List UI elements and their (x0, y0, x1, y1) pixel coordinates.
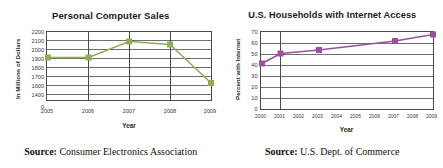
y-tick: 1900 (32, 56, 44, 62)
y-axis-ticks-left: 2200 2100 2000 1900 1800 1700 1600 1400 … (24, 30, 44, 110)
x-tick: 2003 (312, 113, 323, 119)
y-tick: 1700 (32, 74, 44, 80)
two-chart-figure: Personal Computer Sales In Millions of D… (0, 0, 443, 168)
y-tick: 10 (251, 95, 257, 101)
y-tick: 30 (251, 73, 257, 79)
y-axis-ticks-right: 70 60 50 40 30 20 10 0 (242, 30, 258, 110)
x-tick: 2002 (293, 113, 304, 119)
y-tick: 0 (254, 106, 257, 112)
x-tick: 2007 (388, 113, 399, 119)
x-tick: 2008 (164, 108, 176, 114)
x-tick: 2000 (255, 113, 266, 119)
x-tick: 2004 (331, 113, 342, 119)
data-series-right (261, 32, 435, 111)
y-tick: 2200 (32, 29, 44, 35)
x-tick: 2005 (350, 113, 361, 119)
chart-panel-personal-computer-sales: Personal Computer Sales In Millions of D… (0, 0, 222, 168)
y-tick: 70 (251, 29, 257, 35)
y-tick: 20 (251, 84, 257, 90)
y-tick: 2100 (32, 38, 44, 44)
source-caption-left: Source: Consumer Electronics Association (0, 146, 222, 157)
x-tick: 2005 (41, 108, 53, 114)
chart-title-left: Personal Computer Sales (0, 10, 222, 21)
y-tick: 2000 (32, 47, 44, 53)
source-text: U.S. Dept. of Commerce (300, 146, 399, 157)
x-axis-title-left: Year (46, 122, 212, 129)
x-tick: 2007 (123, 108, 135, 114)
y-tick: 1600 (32, 83, 44, 89)
y-tick: 1800 (32, 65, 44, 71)
plot-area-left (46, 31, 212, 101)
x-tick: 2009 (426, 113, 437, 119)
source-label: Source: (265, 146, 298, 157)
data-series-left (47, 32, 213, 102)
source-caption-right: Source: U.S. Dept. of Commerce (222, 146, 443, 157)
x-tick: 2006 (369, 113, 380, 119)
x-tick: 2009 (204, 108, 216, 114)
plot-area-right (260, 31, 434, 110)
x-axis-title-right: Year (260, 126, 434, 133)
y-tick: 50 (251, 51, 257, 57)
x-tick: 2008 (407, 113, 418, 119)
x-tick: 2001 (274, 113, 285, 119)
source-label: Source: (24, 146, 57, 157)
y-tick: 40 (251, 62, 257, 68)
chart-title-right: U.S. Households with Internet Access (222, 10, 443, 20)
x-tick: 2006 (82, 108, 94, 114)
y-tick: 1400 (32, 92, 44, 98)
chart-panel-us-households-internet-access: U.S. Households with Internet Access Per… (222, 0, 443, 168)
y-axis-title-left: In Millions of Dollars (14, 32, 21, 106)
source-text: Consumer Electronics Association (59, 146, 197, 157)
y-tick: 60 (251, 40, 257, 46)
y-axis-title-right: Percent with Internet (234, 31, 241, 107)
